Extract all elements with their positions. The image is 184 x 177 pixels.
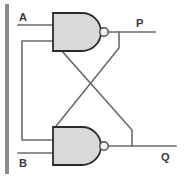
input-label-b: B (19, 157, 27, 169)
output-label-q: Q (161, 151, 170, 163)
circuit-diagram-canvas: A B P Q (0, 0, 184, 177)
nand-gate-bottom-inversion-bubble (100, 142, 108, 150)
nand-gate-top-inversion-bubble (100, 28, 108, 36)
output-label-p: P (136, 17, 143, 29)
input-label-a: A (19, 11, 27, 23)
left-edge-bar (5, 4, 9, 174)
nand-gate-top-body (53, 13, 101, 51)
wire-feedback-left-rail (22, 41, 53, 140)
nand-gate-bottom-body (53, 127, 101, 165)
logic-circuit-diagram: A B P Q (0, 0, 184, 177)
